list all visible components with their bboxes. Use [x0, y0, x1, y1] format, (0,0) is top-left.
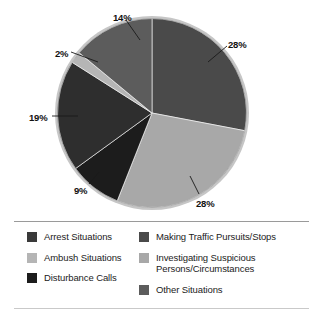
legend-color-swatch [139, 285, 149, 295]
legend-column-right: Making Traffic Pursuits/StopsInvestigati… [139, 231, 314, 304]
legend-column-left: Arrest SituationsAmbush SituationsDistur… [27, 231, 142, 293]
pie-chart-svg [0, 0, 323, 215]
legend-color-swatch [139, 232, 149, 242]
legend-item-label: Making Traffic Pursuits/Stops [156, 231, 276, 243]
pie-slice[interactable] [152, 19, 247, 131]
legend-color-swatch [27, 253, 37, 263]
legend-item[interactable]: Ambush Situations [27, 252, 142, 264]
pie-slice-percent-label: 2% [55, 49, 68, 59]
pie-slice-group [57, 19, 246, 208]
chart-legend: Arrest SituationsAmbush SituationsDistur… [0, 215, 323, 317]
pie-slice-percent-label: 28% [228, 40, 246, 50]
chart-plot-area: 14%28%2%19%9%28% [0, 0, 323, 215]
legend-color-swatch [27, 273, 37, 283]
pie-slice-percent-label: 9% [74, 186, 87, 196]
legend-item-label: Arrest Situations [44, 231, 112, 243]
pie-slice-percent-label: 14% [113, 13, 131, 23]
legend-item[interactable]: Disturbance Calls [27, 272, 142, 284]
legend-item-label: Disturbance Calls [44, 272, 117, 284]
pie-chart-figure: 14%28%2%19%9%28% Arrest SituationsAmbush… [0, 0, 323, 317]
legend-item-label: Investigating Suspicious Persons/Circums… [156, 252, 314, 275]
pie-slice-percent-label: 19% [29, 113, 47, 123]
legend-item[interactable]: Arrest Situations [27, 231, 142, 243]
legend-color-swatch [139, 253, 149, 263]
legend-item[interactable]: Other Situations [139, 284, 314, 296]
legend-color-swatch [27, 232, 37, 242]
legend-item[interactable]: Investigating Suspicious Persons/Circums… [139, 252, 314, 275]
pie-slice-percent-label: 28% [196, 199, 214, 209]
legend-rule-bottom [14, 308, 309, 309]
legend-item[interactable]: Making Traffic Pursuits/Stops [139, 231, 314, 243]
legend-rule-top [14, 221, 309, 222]
legend-item-label: Ambush Situations [44, 252, 122, 264]
legend-item-label: Other Situations [156, 284, 223, 296]
